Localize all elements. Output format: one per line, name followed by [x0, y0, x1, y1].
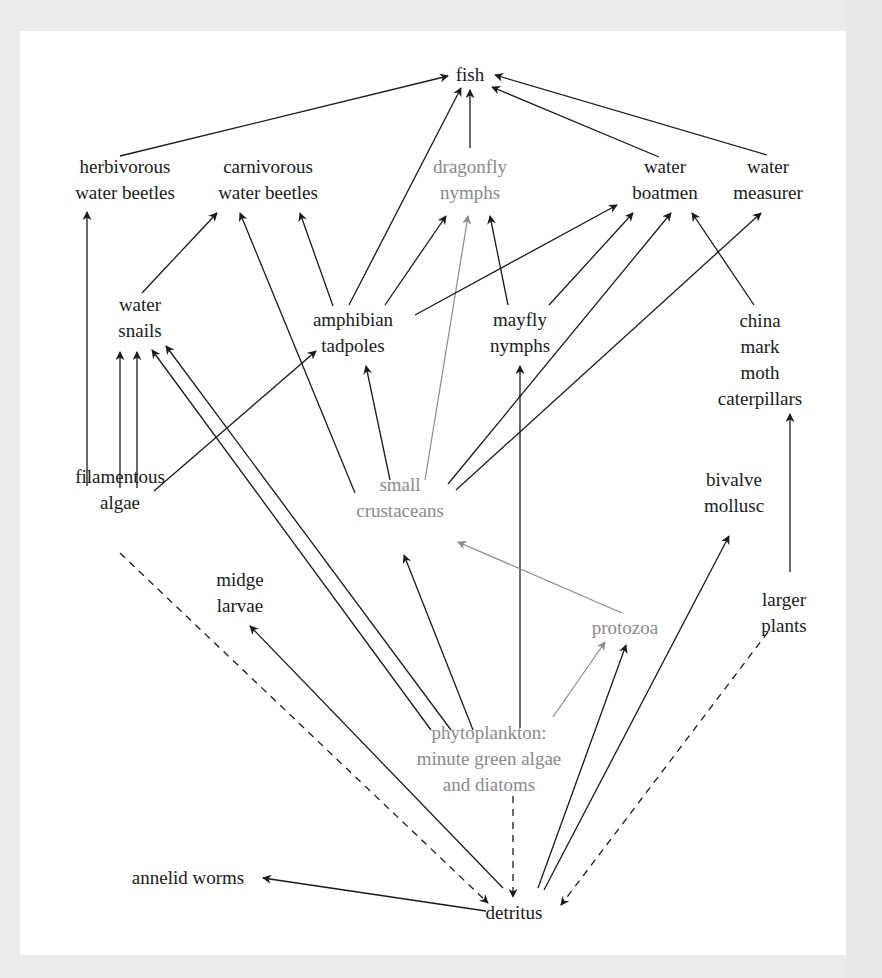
node-midge-larvae: midgelarvae — [216, 567, 264, 619]
node-water-measurer: watermeasurer — [733, 154, 803, 206]
node-protozoa: protozoa — [592, 615, 658, 641]
arrow-filamentous-algae-to-amphibian-tadpoles — [154, 351, 316, 491]
arrow-herbivorous-water-beetles-to-fish — [120, 76, 448, 156]
arrow-phytoplankton-to-water-snails — [166, 346, 451, 730]
node-label-line: water beetles — [218, 180, 318, 206]
node-label-line: china — [718, 308, 802, 334]
node-small-crustaceans: smallcrustaceans — [356, 472, 444, 524]
node-herbivorous-water-beetles: herbivorouswater beetles — [75, 154, 175, 206]
node-water-boatmen: waterboatmen — [632, 154, 697, 206]
arrow-amphibian-tadpoles-to-dragonfly-nymphs — [385, 216, 446, 305]
arrow-phytoplankton-to-protozoa — [553, 642, 605, 717]
node-label-line: boatmen — [632, 180, 697, 206]
node-label-line: water beetles — [75, 180, 175, 206]
arrow-water-snails-to-carnivorous-water-beetles — [142, 213, 217, 293]
node-larger-plants: largerplants — [761, 587, 806, 639]
node-label-line: protozoa — [592, 615, 658, 641]
node-label-line: tadpoles — [313, 333, 393, 359]
node-label-line: minute green algae — [417, 746, 562, 772]
node-label-line: phytoplankton: — [417, 720, 562, 746]
node-label-line: caterpillars — [718, 386, 802, 412]
arrow-mayfly-nymphs-to-water-boatmen — [549, 213, 633, 305]
node-detritus: detritus — [486, 900, 543, 926]
node-label-line: nymphs — [433, 180, 507, 206]
arrow-water-measurer-to-fish — [495, 75, 767, 155]
node-label-line: mollusc — [704, 493, 764, 519]
node-label-line: crustaceans — [356, 498, 444, 524]
node-bivalve-mollusc: bivalvemollusc — [704, 467, 764, 519]
node-label-line: amphibian — [313, 307, 393, 333]
node-china-mark-moth-caterpillars: chinamarkmothcaterpillars — [718, 308, 802, 412]
node-carnivorous-water-beetles: carnivorouswater beetles — [218, 154, 318, 206]
arrow-detritus-to-bivalve-mollusc — [544, 536, 729, 890]
arrow-protozoa-to-small-crustaceans — [458, 542, 622, 613]
node-label-line: and diatoms — [417, 772, 562, 798]
node-label-line: dragonfly — [433, 154, 507, 180]
node-label-line: filamentous — [75, 464, 165, 490]
node-label-line: bivalve — [704, 467, 764, 493]
node-label-line: carnivorous — [218, 154, 318, 180]
node-label-line: small — [356, 472, 444, 498]
node-filamentous-algae: filamentousalgae — [75, 464, 165, 516]
arrow-detritus-to-annelid-worms — [263, 878, 486, 911]
node-label-line: herbivorous — [75, 154, 175, 180]
node-dragonfly-nymphs: dragonflynymphs — [433, 154, 507, 206]
node-label-line: nymphs — [490, 333, 550, 359]
node-label-line: algae — [75, 490, 165, 516]
node-label-line: snails — [118, 318, 161, 344]
node-label-line: plants — [761, 613, 806, 639]
arrow-small-crustaceans-to-amphibian-tadpoles — [366, 366, 390, 480]
arrow-china-mark-moth-caterpillars-to-water-boatmen — [692, 213, 754, 305]
node-label-line: fish — [456, 62, 485, 88]
node-amphibian-tadpoles: amphibiantadpoles — [313, 307, 393, 359]
node-label-line: water — [733, 154, 803, 180]
node-phytoplankton: phytoplankton:minute green algaeand diat… — [417, 720, 562, 798]
arrow-small-crustaceans-to-water-boatmen — [448, 213, 671, 484]
node-fish: fish — [456, 62, 485, 88]
arrow-small-crustaceans-to-dragonfly-nymphs — [425, 216, 468, 480]
node-label-line: mayfly — [490, 307, 550, 333]
node-label-line: moth — [718, 360, 802, 386]
arrow-phytoplankton-to-small-crustaceans — [404, 555, 473, 730]
node-mayfly-nymphs: mayflynymphs — [490, 307, 550, 359]
node-water-snails: watersnails — [118, 292, 161, 344]
node-label-line: annelid worms — [132, 865, 244, 891]
node-label-line: water — [632, 154, 697, 180]
arrow-amphibian-tadpoles-to-carnivorous-water-beetles — [300, 213, 333, 306]
node-label-line: water — [118, 292, 161, 318]
node-label-line: mark — [718, 334, 802, 360]
node-label-line: midge — [216, 567, 264, 593]
node-label-line: larger — [761, 587, 806, 613]
node-label-line: larvae — [216, 593, 264, 619]
arrow-water-boatmen-to-fish — [492, 87, 659, 157]
arrow-phytoplankton-to-water-snails — [152, 350, 431, 730]
arrow-larger-plants-to-detritus — [561, 632, 768, 905]
arrow-mayfly-nymphs-to-dragonfly-nymphs — [490, 216, 508, 305]
node-label-line: detritus — [486, 900, 543, 926]
node-label-line: measurer — [733, 180, 803, 206]
node-annelid-worms: annelid worms — [132, 865, 244, 891]
arrow-amphibian-tadpoles-to-water-boatmen — [415, 205, 617, 315]
